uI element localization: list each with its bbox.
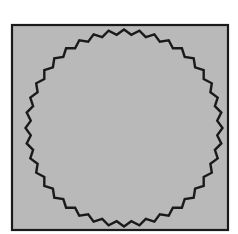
gray-square: [12, 25, 228, 230]
jagged-circle-diagram: [0, 0, 238, 234]
